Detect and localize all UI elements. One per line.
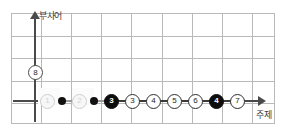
chart-marker-2[interactable]: 2 bbox=[72, 94, 87, 109]
chart-marker-3-filled[interactable]: 3 bbox=[104, 94, 119, 109]
chart-marker-6[interactable]: 6 bbox=[188, 94, 203, 109]
x-axis-arrowhead-icon bbox=[258, 96, 266, 106]
chart-marker-3[interactable]: 3 bbox=[125, 94, 140, 109]
x-axis-label: 주제 bbox=[256, 108, 271, 121]
chart-screenshot: 부사어 주제 8 1 2 3 3 4 5 6 4 7 bbox=[0, 0, 286, 137]
y-axis-label: 부사어 bbox=[39, 9, 62, 22]
chart-marker-4-filled[interactable]: 4 bbox=[209, 94, 224, 109]
chart-dot-2[interactable] bbox=[90, 97, 98, 105]
y-axis-marker-8[interactable]: 8 bbox=[28, 65, 43, 80]
marker-chain: 1 2 3 3 4 5 6 4 7 bbox=[40, 89, 245, 113]
chart-marker-5[interactable]: 5 bbox=[167, 94, 182, 109]
chart-dot-1[interactable] bbox=[58, 97, 66, 105]
chart-marker-4[interactable]: 4 bbox=[146, 94, 161, 109]
chart-marker-7[interactable]: 7 bbox=[230, 94, 245, 109]
chart-marker-1[interactable]: 1 bbox=[40, 94, 55, 109]
